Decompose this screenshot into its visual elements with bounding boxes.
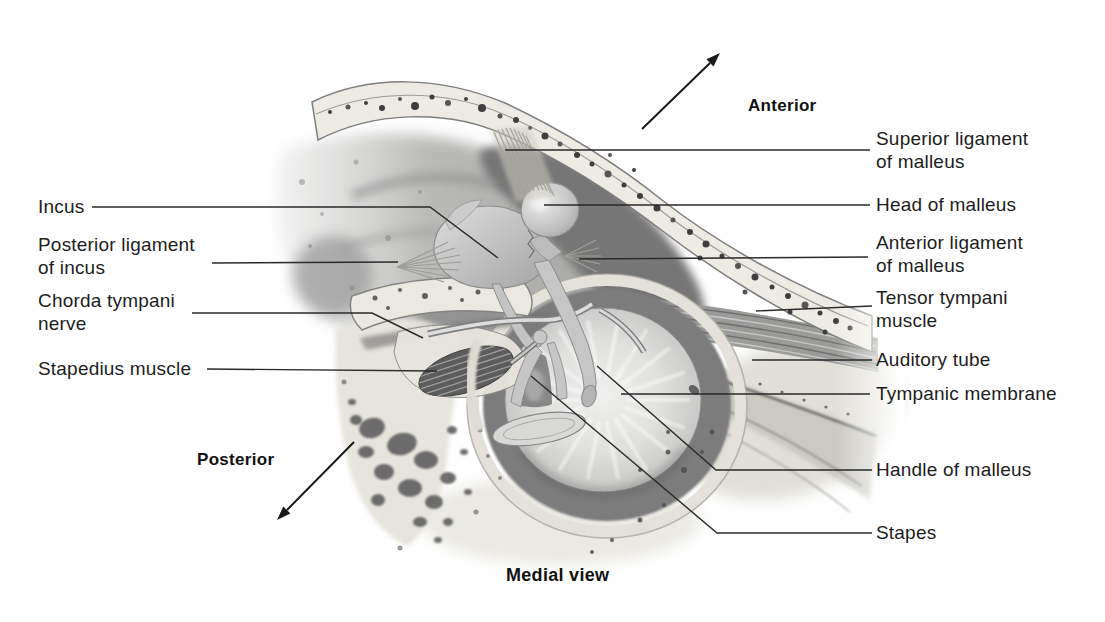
label-handle-of-malleus: Handle of malleus — [876, 459, 1031, 482]
label-anterior-ligament-of-malleus-line1: Anterior ligament — [876, 232, 1023, 255]
label-anterior-ligament-of-malleus-line2: of malleus — [876, 255, 1023, 278]
label-tensor-tympani-muscle-line2: muscle — [876, 310, 1008, 333]
label-stapes-line1: Stapes — [876, 522, 936, 545]
label-stapedius-muscle: Stapedius muscle — [38, 358, 191, 381]
label-auditory-tube: Auditory tube — [876, 349, 991, 372]
label-handle-of-malleus-line1: Handle of malleus — [876, 459, 1031, 482]
label-superior-ligament-of-malleus-line1: Superior ligament — [876, 128, 1028, 151]
figure-caption: Medial view — [506, 565, 609, 586]
posterior-direction-arrow — [277, 442, 354, 520]
figure-canvas: Incus Posterior ligament of incus Chorda… — [0, 0, 1105, 622]
label-tensor-tympani-muscle: Tensor tympani muscle — [876, 287, 1008, 332]
label-incus-line1: Incus — [38, 196, 84, 219]
label-superior-ligament-of-malleus-line2: of malleus — [876, 151, 1028, 174]
posterior-direction-label: Posterior — [197, 450, 274, 470]
anterior-direction-arrow — [642, 53, 720, 129]
anterior-direction-label: Anterior — [748, 96, 817, 116]
label-head-of-malleus: Head of malleus — [876, 194, 1016, 217]
label-tympanic-membrane-line1: Tympanic membrane — [876, 383, 1057, 406]
label-incus: Incus — [38, 196, 84, 219]
label-chorda-tympani-nerve: Chorda tympani nerve — [38, 290, 175, 335]
label-tympanic-membrane: Tympanic membrane — [876, 383, 1057, 406]
label-chorda-tympani-nerve-line2: nerve — [38, 313, 175, 336]
label-posterior-ligament-of-incus-line2: of incus — [38, 257, 195, 280]
label-auditory-tube-line1: Auditory tube — [876, 349, 991, 372]
label-chorda-tympani-nerve-line1: Chorda tympani — [38, 290, 175, 313]
stapes-head — [533, 330, 547, 344]
label-tensor-tympani-muscle-line1: Tensor tympani — [876, 287, 1008, 310]
label-stapes: Stapes — [876, 522, 936, 545]
label-superior-ligament-of-malleus: Superior ligament of malleus — [876, 128, 1028, 173]
label-stapedius-muscle-line1: Stapedius muscle — [38, 358, 191, 381]
label-head-of-malleus-line1: Head of malleus — [876, 194, 1016, 217]
label-posterior-ligament-of-incus-line1: Posterior ligament — [38, 234, 195, 257]
label-anterior-ligament-of-malleus: Anterior ligament of malleus — [876, 232, 1023, 277]
label-posterior-ligament-of-incus: Posterior ligament of incus — [38, 234, 195, 279]
